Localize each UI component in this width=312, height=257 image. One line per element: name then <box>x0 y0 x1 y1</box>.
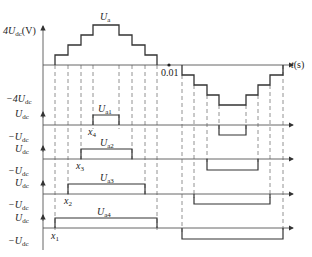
cell1-udc-label: Udc <box>15 109 29 121</box>
waveform-diagram: 4Udc(V) Ua 0.01 t(s) −4Udc Udc Ua1 x4 −U… <box>0 0 312 257</box>
ua2-label: Ua2 <box>100 138 114 150</box>
ua-label: Ua <box>100 12 110 24</box>
cell2-udc-label: Udc <box>15 144 29 156</box>
ua-staircase-negative <box>182 65 283 105</box>
ua1-pulse-negative <box>219 125 246 135</box>
cell3-mudc-label: −Udc <box>8 200 29 212</box>
cell4-mudc-label: −Udc <box>8 236 29 248</box>
ua1-pulse <box>93 115 119 125</box>
ua1-label: Ua1 <box>98 104 112 116</box>
waveform-plot <box>0 0 312 257</box>
ua4-pulse <box>55 218 157 228</box>
cell3-udc-label: Udc <box>15 178 29 190</box>
ua4-pulse-negative <box>182 228 283 239</box>
ua-staircase <box>55 25 157 65</box>
ua2-pulse-negative <box>207 159 258 170</box>
ua3-pulse-negative <box>194 194 270 204</box>
t-001-label: 0.01 <box>161 68 179 78</box>
y-max-label: 4Udc(V) <box>3 26 36 38</box>
y-min-label: −4Udc <box>6 94 32 106</box>
ua4-label: Ua4 <box>97 207 111 219</box>
ua3-label: Ua3 <box>100 173 114 185</box>
ua2-pulse <box>81 149 132 159</box>
x4-label: x4 <box>88 127 96 139</box>
x1-label: x1 <box>51 231 59 243</box>
cell4-udc-label: Udc <box>15 213 29 225</box>
x2-label: x2 <box>64 196 72 208</box>
x3-label: x3 <box>76 161 84 173</box>
ua3-pulse <box>68 184 145 194</box>
t-axis-label: t(s) <box>291 60 304 70</box>
